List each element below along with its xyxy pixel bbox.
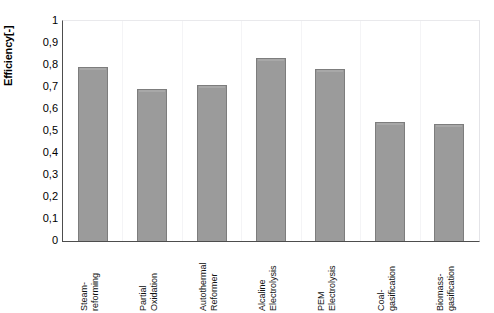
bar (137, 89, 167, 241)
y-axis-tick-labels: 10,90,80,70,60,50,40,30,20,10 (24, 12, 58, 248)
y-axis-tick-label: 0,3 (24, 168, 58, 180)
x-axis-category-label: Alcaline Electrolysis (257, 241, 283, 311)
y-axis-tick-label: 1 (24, 14, 58, 26)
chart-screenshot: Efficiency[-] 10,90,80,70,60,50,40,30,20… (0, 0, 494, 313)
y-axis-tick-label: 0,9 (24, 36, 58, 48)
y-axis-tick-label: 0,6 (24, 102, 58, 114)
x-axis-category-label: Steam- reforming (79, 241, 105, 311)
y-axis-tick-label: 0,8 (24, 58, 58, 70)
bar (256, 58, 286, 241)
bars-layer (63, 21, 479, 241)
x-axis-category-labels: Steam- reformingPartial OxidationAutothe… (62, 243, 478, 313)
bar (434, 124, 464, 241)
y-axis-tick-label: 0,7 (24, 80, 58, 92)
bar (375, 122, 405, 241)
bar (197, 85, 227, 241)
plot-area (62, 20, 480, 242)
x-axis-category-label: Autothermal Reformer (198, 241, 224, 311)
y-axis-tick-label: 0 (24, 234, 58, 246)
y-axis-tick-label: 0,1 (24, 212, 58, 224)
y-axis-title: Efficiency[-] (2, 0, 16, 86)
y-axis-tick-label: 0,5 (24, 124, 58, 136)
bar (315, 69, 345, 241)
x-axis-category-label: Biomass- gasification (435, 241, 461, 311)
bar (78, 67, 108, 241)
y-axis-tick-label: 0,4 (24, 146, 58, 158)
y-axis-tick-label: 0,2 (24, 190, 58, 202)
x-axis-category-label: Partial Oxidation (138, 241, 164, 311)
efficiency-bar-chart: Efficiency[-] 10,90,80,70,60,50,40,30,20… (0, 0, 494, 313)
x-axis-category-label: PEM Electrolysis (316, 241, 342, 311)
x-axis-category-label: Coal- gasification (376, 241, 402, 311)
